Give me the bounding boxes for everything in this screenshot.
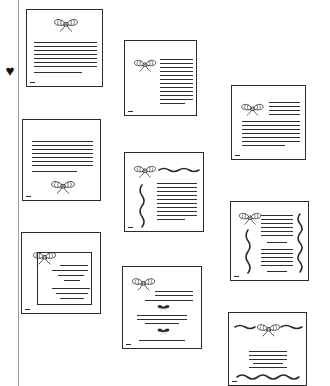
- text-rule-line: [34, 46, 97, 47]
- text-rule-line: [249, 359, 287, 360]
- text-rule-line: [261, 215, 293, 216]
- text-rule-line: [34, 62, 97, 63]
- text-rule-line: [32, 153, 93, 154]
- ribbon-bow-icon: [133, 57, 157, 72]
- text-rule-line: [269, 102, 300, 103]
- document-card-doc-9[interactable]: [228, 312, 307, 386]
- document-corner-tick: [234, 276, 239, 278]
- text-rule-line: [249, 351, 287, 352]
- text-rule-line: [32, 149, 93, 150]
- document-card-doc-4[interactable]: [22, 119, 101, 201]
- text-rule-line: [160, 63, 193, 64]
- document-card-doc-8[interactable]: [122, 266, 202, 349]
- text-rule-line: [145, 300, 193, 301]
- decorative-wave-horizontal-1: [281, 321, 302, 333]
- text-rule-line: [160, 95, 193, 96]
- text-rule-line: [249, 355, 287, 356]
- text-rule-line: [160, 103, 185, 104]
- text-rule-line: [242, 141, 300, 142]
- text-rule-line: [242, 133, 300, 134]
- document-card-doc-5[interactable]: [124, 152, 204, 232]
- text-rule-line: [32, 165, 93, 166]
- document-gallery-canvas[interactable]: ♥: [0, 0, 330, 386]
- text-rule-line: [242, 137, 300, 138]
- ribbon-bow-icon-small-0: [157, 303, 170, 312]
- text-rule-line: [157, 211, 197, 212]
- text-rule-line: [160, 67, 193, 68]
- document-card-doc-1[interactable]: [26, 9, 103, 87]
- text-rule-line: [160, 75, 193, 76]
- ribbon-bow-icon: [131, 275, 156, 291]
- text-rule-line: [155, 295, 193, 296]
- text-rule-line: [56, 293, 88, 294]
- text-rule-line: [157, 203, 197, 204]
- text-rule-line: [242, 129, 300, 130]
- text-rule-line: [261, 257, 293, 258]
- text-rule-line: [32, 157, 93, 158]
- text-rule-line: [34, 54, 97, 55]
- text-rule-line: [52, 288, 90, 289]
- text-rule-line: [160, 87, 193, 88]
- text-rule-line: [139, 340, 185, 341]
- ribbon-bow-icon: [50, 178, 76, 194]
- decorative-wave-horizontal-0: [159, 164, 199, 176]
- document-corner-tick: [235, 155, 240, 157]
- text-rule-line: [34, 50, 97, 51]
- vertical-guide-rail[interactable]: [18, 0, 19, 386]
- text-rule-line: [261, 223, 293, 224]
- text-rule-line: [269, 110, 300, 111]
- text-rule-line: [137, 319, 187, 320]
- text-rule-line: [261, 261, 293, 262]
- document-corner-tick: [30, 82, 35, 84]
- ribbon-bow-icon-small-1: [157, 326, 170, 336]
- document-card-doc-7[interactable]: [21, 232, 101, 314]
- document-card-doc-6[interactable]: [230, 201, 309, 281]
- decorative-wave-vertical-1: [293, 214, 307, 272]
- text-rule-line: [160, 59, 193, 60]
- document-card-doc-2[interactable]: [124, 40, 197, 116]
- text-rule-line: [32, 171, 77, 172]
- text-rule-line: [34, 42, 97, 43]
- text-rule-line: [155, 291, 193, 292]
- text-rule-line: [160, 91, 193, 92]
- text-rule-line: [32, 145, 93, 146]
- text-rule-line: [160, 83, 193, 84]
- text-rule-line: [60, 265, 88, 266]
- text-rule-line: [160, 79, 193, 80]
- text-rule-line: [32, 141, 93, 142]
- decorative-wave-vertical-1: [135, 185, 149, 227]
- ribbon-bow-icon: [32, 249, 57, 265]
- document-corner-tick: [25, 309, 30, 311]
- text-rule-line: [137, 315, 187, 316]
- text-rule-line: [157, 195, 197, 196]
- heart-marker-icon[interactable]: ♥: [3, 64, 17, 78]
- ribbon-bow-icon: [53, 16, 79, 32]
- text-rule-line: [269, 106, 300, 107]
- document-card-doc-3[interactable]: [231, 85, 306, 160]
- text-rule-line: [267, 271, 287, 272]
- ribbon-bow-icon: [238, 210, 262, 225]
- text-rule-line: [64, 280, 80, 281]
- text-rule-line: [34, 66, 97, 67]
- text-rule-line: [157, 207, 197, 208]
- text-rule-line: [242, 121, 300, 122]
- text-rule-line: [253, 363, 283, 364]
- text-rule-line: [157, 199, 197, 200]
- text-rule-line: [261, 219, 293, 220]
- ribbon-bow-icon: [240, 101, 265, 116]
- text-rule-line: [160, 71, 193, 72]
- text-rule-line: [157, 187, 197, 188]
- decorative-wave-vertical-0: [241, 230, 255, 273]
- text-rule-line: [34, 58, 97, 59]
- document-corner-tick: [126, 344, 131, 346]
- text-rule-line: [157, 215, 197, 216]
- text-rule-line: [261, 253, 293, 254]
- decorative-wave-horizontal-0: [235, 321, 255, 333]
- text-rule-line: [157, 191, 197, 192]
- text-rule-line: [157, 183, 197, 184]
- text-rule-line: [242, 125, 300, 126]
- text-rule-line: [249, 367, 287, 368]
- text-rule-line: [261, 235, 293, 236]
- text-rule-line: [60, 298, 84, 299]
- text-rule-line: [261, 265, 293, 266]
